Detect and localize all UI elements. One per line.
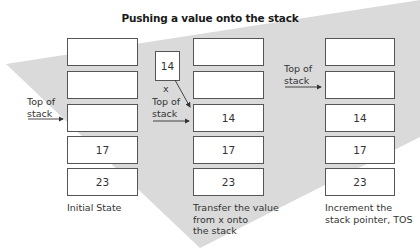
arrow-icon [175,80,190,107]
arrows-overlay [0,0,420,248]
